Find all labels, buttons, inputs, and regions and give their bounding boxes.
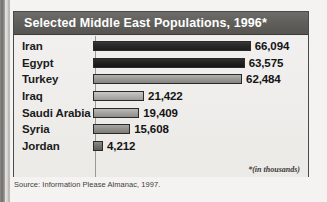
bar-row: Egypt63,575 [14, 55, 308, 72]
bar-track: 4,212 [93, 138, 308, 155]
bar [93, 124, 130, 134]
category-label: Syria [14, 123, 93, 135]
bar-row: Jordan4,212 [14, 138, 308, 155]
chart-screenshot: Selected Middle East Populations, 1996* … [0, 0, 327, 202]
bar-rows: Iran66,094Egypt63,575Turkey62,484Iraq21,… [14, 38, 308, 154]
bar-value-label: 63,575 [249, 57, 284, 69]
bar-row: Turkey62,484 [14, 71, 308, 88]
bar-track: 66,094 [93, 38, 308, 55]
category-label: Turkey [14, 73, 93, 85]
bar [93, 58, 245, 68]
chart-title: Selected Middle East Populations, 1996* [14, 12, 308, 35]
bar-value-label: 62,484 [246, 73, 281, 85]
bar-value-label: 66,094 [255, 40, 290, 52]
bar-track: 19,409 [93, 104, 308, 121]
bar-value-label: 4,212 [107, 140, 135, 152]
bar [93, 141, 103, 151]
bar-track: 21,422 [93, 88, 308, 105]
bar-row: Syria15,608 [14, 121, 308, 138]
bar [93, 74, 242, 84]
bar [93, 91, 144, 101]
bar [93, 108, 139, 118]
category-label: Saudi Arabia [14, 107, 93, 119]
bar-track: 62,484 [93, 71, 308, 88]
chart-panel: Selected Middle East Populations, 1996* … [13, 11, 309, 177]
bar-row: Iraq21,422 [14, 88, 308, 105]
source-caption: Source: Information Please Almanac, 1997… [14, 180, 160, 189]
bar-track: 15,608 [93, 121, 308, 138]
units-footnote: *(in thousands) [248, 165, 300, 174]
plot-area: Iran66,094Egypt63,575Turkey62,484Iraq21,… [14, 36, 308, 177]
bar [93, 41, 251, 51]
bar-row: Saudi Arabia19,409 [14, 104, 308, 121]
bar-track: 63,575 [93, 55, 308, 72]
category-label: Jordan [14, 140, 93, 152]
bar-value-label: 15,608 [134, 123, 169, 135]
bar-value-label: 21,422 [148, 90, 183, 102]
category-label: Iraq [14, 90, 93, 102]
category-label: Iran [14, 40, 93, 52]
bar-value-label: 19,409 [143, 107, 178, 119]
category-label: Egypt [14, 57, 93, 69]
bar-row: Iran66,094 [14, 38, 308, 55]
